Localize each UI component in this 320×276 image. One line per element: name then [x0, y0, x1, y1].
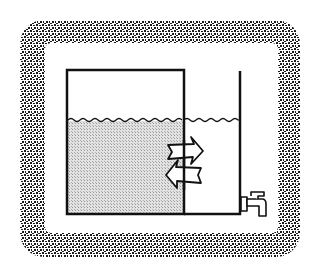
diagram-canvas — [0, 0, 320, 276]
tank-diagram — [0, 0, 320, 276]
left-tank-water — [68, 121, 183, 213]
